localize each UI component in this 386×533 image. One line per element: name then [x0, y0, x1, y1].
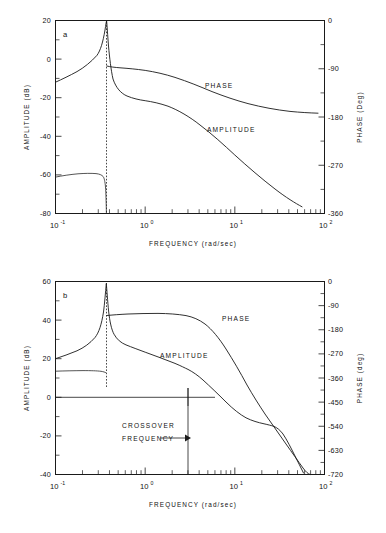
svg-text:-60: -60 — [40, 170, 51, 179]
svg-text:10: 10 — [140, 482, 148, 491]
svg-text:60: 60 — [43, 277, 51, 286]
svg-text:10: 10 — [50, 482, 58, 491]
svg-text:20: 20 — [43, 16, 51, 25]
svg-text:10: 10 — [230, 221, 238, 230]
panel-label-a: a — [63, 30, 68, 39]
svg-text:0: 0 — [328, 277, 332, 286]
svg-text:-40: -40 — [40, 470, 51, 479]
svg-text:10: 10 — [319, 482, 327, 491]
svg-text:-270: -270 — [328, 161, 343, 170]
svg-text:-360: -360 — [328, 209, 343, 218]
x-tick-labels-a: 10 -1 10 0 10 1 10 2 — [50, 219, 333, 230]
svg-text:-270: -270 — [328, 349, 343, 358]
svg-text:-20: -20 — [40, 431, 51, 440]
y-axis-title-right-b: PHASE (deg) — [356, 353, 364, 403]
svg-text:0: 0 — [151, 219, 154, 225]
low-level-trace-a — [56, 173, 107, 213]
phase-curve-b — [107, 313, 310, 474]
svg-text:-90: -90 — [328, 64, 339, 73]
y-left-tick-labels-a: 20 0 -20 -40 -60 -80 — [40, 16, 51, 218]
svg-text:-540: -540 — [328, 422, 343, 431]
svg-text:-1: -1 — [61, 219, 66, 225]
y-left-tick-labels-b: 60 40 20 0 -20 -40 — [40, 277, 51, 479]
panel-a: 20 0 -20 -40 -60 -80 0 -90 -180 -270 -36… — [0, 0, 386, 266]
panel-a-svg: 20 0 -20 -40 -60 -80 0 -90 -180 -270 -36… — [0, 0, 386, 266]
y-axis-title-left-b: AMPLITUDE (dB) — [23, 345, 31, 411]
amplitude-curve-b — [56, 284, 304, 474]
crossover-annotation-line2: FREQUENCY — [122, 435, 174, 443]
y-right-tick-labels-b: 0 -90 -180 -270 -360 -450 -540 -630 -720 — [328, 277, 343, 479]
x-tick-labels-b: 10 -1 10 0 10 1 10 2 — [50, 480, 333, 491]
svg-text:10: 10 — [319, 221, 327, 230]
svg-text:-360: -360 — [328, 374, 343, 383]
svg-text:-20: -20 — [40, 93, 51, 102]
y-axis-title-left-a: AMPLITUDE (dB) — [23, 84, 31, 150]
svg-text:0: 0 — [47, 393, 51, 402]
amplitude-curve-a — [56, 21, 303, 207]
x-axis-title-b: FREQUENCY (rad/sec) — [149, 501, 237, 509]
svg-text:2: 2 — [330, 480, 333, 486]
svg-text:-450: -450 — [328, 398, 343, 407]
svg-text:1: 1 — [240, 480, 243, 486]
svg-text:1: 1 — [240, 219, 243, 225]
plot-frame-b — [56, 282, 325, 475]
x-axis-title-a: FREQUENCY (rad/sec) — [149, 240, 237, 248]
svg-text:10: 10 — [230, 482, 238, 491]
svg-text:-630: -630 — [328, 446, 343, 455]
crossover-annotation-line1: CROSSOVER — [122, 422, 175, 429]
series-label-amplitude-a: AMPLITUDE — [207, 126, 256, 133]
y-right-tick-labels-a: 0 -90 -180 -270 -360 — [328, 16, 343, 218]
svg-text:-1: -1 — [61, 480, 66, 486]
svg-text:-720: -720 — [328, 470, 343, 479]
svg-text:-80: -80 — [40, 209, 51, 218]
svg-text:40: 40 — [43, 316, 51, 325]
panel-b-svg: 60 40 20 0 -20 -40 0 -90 -180 -270 -360 … — [0, 266, 386, 533]
svg-text:0: 0 — [151, 480, 154, 486]
svg-text:10: 10 — [140, 221, 148, 230]
y-right-ticks-b — [319, 282, 325, 475]
plot-frame-a — [56, 21, 325, 214]
low-level-trace-b — [56, 371, 107, 373]
y-left-ticks-b — [56, 282, 62, 475]
svg-text:2: 2 — [330, 219, 333, 225]
panel-label-b: b — [63, 291, 67, 300]
x-ticks-a — [56, 207, 325, 214]
svg-text:10: 10 — [50, 221, 58, 230]
svg-text:0: 0 — [328, 16, 332, 25]
svg-text:-180: -180 — [328, 113, 343, 122]
svg-text:20: 20 — [43, 354, 51, 363]
y-axis-title-right-a: PHASE (Deg) — [356, 91, 364, 143]
svg-text:0: 0 — [47, 55, 51, 64]
svg-text:-40: -40 — [40, 132, 51, 141]
svg-text:-90: -90 — [328, 301, 339, 310]
svg-text:-180: -180 — [328, 325, 343, 334]
panel-b: 60 40 20 0 -20 -40 0 -90 -180 -270 -360 … — [0, 266, 386, 532]
y-right-ticks-a — [319, 21, 325, 214]
figure-root: 20 0 -20 -40 -60 -80 0 -90 -180 -270 -36… — [0, 0, 386, 533]
phase-curve-a — [107, 66, 318, 113]
y-left-ticks-a — [56, 21, 62, 214]
x-ticks-b — [56, 468, 325, 475]
series-label-amplitude-b: AMPLITUDE — [160, 352, 209, 359]
series-label-phase-b: PHASE — [222, 315, 250, 322]
series-label-phase-a: PHASE — [205, 82, 233, 89]
